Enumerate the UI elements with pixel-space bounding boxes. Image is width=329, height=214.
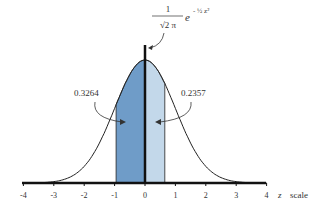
formula-exponent: - ½ z² (193, 7, 209, 15)
z-letter: z (277, 190, 282, 200)
formula-denominator: √2 π (160, 20, 177, 30)
scale-label: scale (290, 190, 308, 200)
tick-label: 4 (265, 191, 269, 200)
formula-e: e (185, 11, 190, 23)
formula-arrowhead (148, 45, 153, 50)
tick-label: 0 (143, 191, 147, 200)
left-area-label: 0.3264 (74, 88, 99, 98)
tick-label: -2 (81, 191, 88, 200)
normal-curve-diagram: -4-3-2-101234 1 √2 π e - ½ z² 0.3264 0.2… (0, 0, 329, 214)
tick-label: 1 (173, 191, 177, 200)
tick-label: -1 (111, 191, 118, 200)
tick-label: 3 (234, 191, 238, 200)
axis-ticks: -4-3-2-101234 (20, 183, 269, 200)
tick-label: -3 (50, 191, 57, 200)
tick-label: 2 (204, 191, 208, 200)
right-area-label: 0.2357 (181, 88, 206, 98)
tick-label: -4 (20, 191, 27, 200)
formula-numerator: 1 (166, 4, 171, 14)
